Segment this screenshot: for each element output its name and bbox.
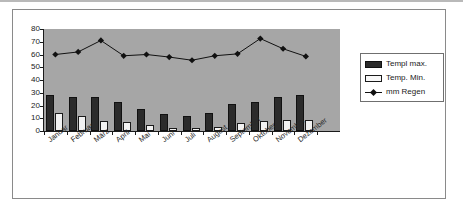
y-axis-tick-label: 20 (31, 102, 40, 110)
y-axis-tick-labels: 01020304050607080 (20, 29, 40, 131)
marker-mm-regen (52, 51, 58, 57)
y-axis-tick-label: 10 (31, 114, 40, 122)
y-axis-tick-mark (40, 29, 44, 30)
marker-mm-regen (75, 49, 81, 55)
legend-swatch-temp-min-icon (365, 75, 382, 82)
screenshot-canvas: 01020304050607080 JanuarFebruarMärzApril… (0, 0, 463, 211)
marker-mm-regen (280, 46, 286, 52)
y-axis-tick-mark (40, 55, 44, 56)
line-mm-regen (55, 39, 305, 61)
marker-mm-regen (189, 57, 195, 63)
legend-item-temp-min: Temp. Min. (365, 71, 440, 85)
x-axis-tick-mark (44, 131, 45, 135)
y-axis-tick-label: 50 (31, 63, 40, 71)
marker-mm-regen (257, 35, 263, 41)
x-axis-tick-mark (112, 131, 113, 135)
y-axis-tick-mark (40, 118, 44, 119)
y-axis-tick-mark (40, 42, 44, 43)
y-axis-tick-label: 80 (31, 25, 40, 33)
legend-label-temp-max: Templ max. (386, 60, 427, 68)
marker-mm-regen (166, 54, 172, 60)
x-axis-tick-mark (181, 131, 182, 135)
marker-mm-regen (212, 53, 218, 59)
y-axis-tick-mark (40, 93, 44, 94)
marker-mm-regen (98, 37, 104, 43)
marker-mm-regen (234, 51, 240, 57)
line-series-layer (44, 29, 340, 131)
legend-item-temp-max: Templ max. (365, 57, 440, 71)
legend-label-mm-regen: mm Regen (386, 88, 425, 96)
legend-item-mm-regen: mm Regen (365, 85, 440, 99)
y-axis-tick-label: 60 (31, 51, 40, 59)
x-axis-tick-mark (203, 131, 204, 135)
y-axis-tick-label: 40 (31, 76, 40, 84)
legend-marker-mm-regen-icon (365, 89, 382, 96)
x-axis-tick-mark (135, 131, 136, 135)
chart-legend: Templ max. Temp. Min. mm Regen (360, 53, 444, 102)
plot-area (44, 29, 340, 131)
page-top-rule (0, 0, 463, 2)
marker-mm-regen (143, 51, 149, 57)
x-axis-tick-mark (158, 131, 159, 135)
marker-mm-regen (121, 53, 127, 59)
legend-swatch-temp-max-icon (365, 61, 382, 68)
marker-mm-regen (303, 53, 309, 59)
y-axis-tick-mark (40, 80, 44, 81)
legend-label-temp-min: Temp. Min. (386, 74, 425, 82)
y-axis-tick-mark (40, 131, 44, 132)
y-axis-tick-mark (40, 67, 44, 68)
y-axis-tick-label: 70 (31, 38, 40, 46)
y-axis-tick-label: 30 (31, 89, 40, 97)
y-axis-tick-mark (40, 106, 44, 107)
